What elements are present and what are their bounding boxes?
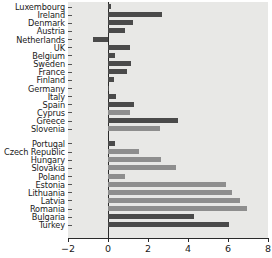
- x-axis-tick-label: 0: [96, 243, 120, 254]
- bar: [108, 157, 161, 162]
- x-axis-tick: [108, 238, 109, 242]
- x-axis-tick-label: 6: [216, 243, 240, 254]
- bar: [108, 141, 115, 146]
- bar: [108, 28, 125, 33]
- bar: [108, 222, 229, 227]
- bar: [108, 12, 162, 17]
- bar: [108, 94, 116, 99]
- y-axis-tick: [68, 80, 72, 81]
- y-axis-tick: [68, 121, 72, 122]
- x-axis-tick-label: −2: [56, 243, 80, 254]
- bar: [108, 126, 160, 131]
- y-axis-tick: [68, 200, 72, 201]
- bar: [108, 190, 232, 195]
- bar: [108, 4, 111, 9]
- y-axis-tick: [68, 192, 72, 193]
- y-axis-tick: [68, 184, 72, 185]
- y-axis-tick: [68, 143, 72, 144]
- y-axis-tick: [68, 55, 72, 56]
- x-axis-tick: [228, 238, 229, 242]
- category-label: Slovenia: [31, 125, 65, 133]
- y-axis-tick: [68, 15, 72, 16]
- bar: [108, 206, 247, 211]
- bar: [108, 182, 226, 187]
- bar-chart: LuxembourgIrelandDenmarkAustriaNetherlan…: [0, 0, 272, 258]
- bar: [108, 61, 131, 66]
- y-axis-tick: [68, 168, 72, 169]
- y-axis-tick: [68, 96, 72, 97]
- x-axis-line: [68, 238, 268, 239]
- bar: [108, 174, 125, 179]
- y-axis-tick: [68, 72, 72, 73]
- x-axis-tick: [268, 238, 269, 242]
- y-axis-tick: [68, 31, 72, 32]
- y-axis-tick: [68, 129, 72, 130]
- bar: [108, 102, 134, 107]
- y-axis-tick: [68, 64, 72, 65]
- bar: [93, 37, 108, 42]
- x-axis-tick-label: 4: [176, 243, 200, 254]
- bar: [108, 20, 133, 25]
- bar: [108, 149, 139, 154]
- y-axis-tick: [68, 217, 72, 218]
- y-axis-tick: [68, 88, 72, 89]
- y-axis-tick: [68, 160, 72, 161]
- bar: [108, 118, 178, 123]
- category-labels: LuxembourgIrelandDenmarkAustriaNetherlan…: [0, 2, 65, 238]
- x-axis-tick-label: 8: [256, 243, 272, 254]
- bar: [108, 86, 109, 91]
- bar: [108, 198, 240, 203]
- y-axis-tick: [68, 112, 72, 113]
- x-axis-tick-label: 2: [136, 243, 160, 254]
- y-axis-tick: [68, 47, 72, 48]
- x-axis-tick: [148, 238, 149, 242]
- bar: [108, 165, 176, 170]
- x-axis-tick: [188, 238, 189, 242]
- bar: [108, 77, 114, 82]
- plot-area: [68, 2, 268, 238]
- y-axis-tick: [68, 23, 72, 24]
- y-axis-tick: [68, 176, 72, 177]
- x-axis-tick: [68, 238, 69, 242]
- y-axis-tick: [68, 225, 72, 226]
- y-axis-tick: [68, 39, 72, 40]
- y-axis-tick: [68, 104, 72, 105]
- bar: [108, 110, 130, 115]
- y-axis-tick: [68, 209, 72, 210]
- bar: [108, 53, 115, 58]
- bar: [108, 45, 130, 50]
- category-label: Turkey: [39, 221, 65, 229]
- y-axis-tick: [68, 152, 72, 153]
- bar: [108, 214, 194, 219]
- bar: [108, 69, 127, 74]
- y-axis-tick: [68, 7, 72, 8]
